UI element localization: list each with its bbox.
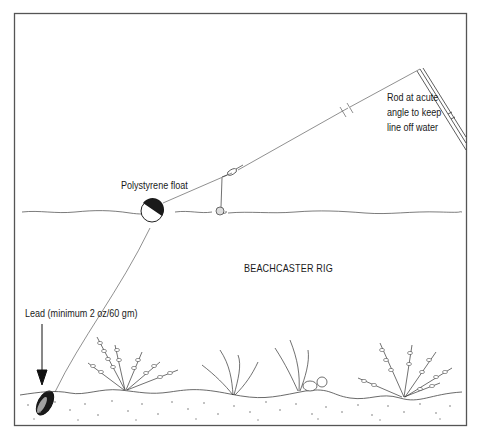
sand-texture — [27, 400, 451, 420]
rod-label-line-3: line off water — [387, 120, 438, 135]
fishing-line — [55, 69, 420, 392]
rod-label-line-1: Rod at acute — [387, 90, 438, 105]
pebbles — [303, 377, 327, 391]
swivel — [221, 165, 243, 207]
polystyrene-float — [141, 198, 164, 222]
float-label: Polystyrene float — [121, 179, 188, 192]
frame-border — [15, 14, 467, 426]
water-surface — [22, 211, 462, 214]
seaweed-branched-right — [358, 343, 452, 397]
lead-label: Lead (minimum 2 oz/60 gm) — [25, 307, 137, 320]
beachcaster-rig-illustration — [0, 0, 483, 440]
lead-arrow-icon — [37, 324, 47, 385]
seaweed-grass-center — [202, 340, 308, 395]
diagram-title: BEACHCASTER RIG — [244, 262, 333, 275]
rod-label-line-2: angle to keep — [387, 105, 441, 120]
baited-hook — [216, 207, 226, 215]
seaweed-branched-left — [88, 337, 178, 390]
sea-bed — [20, 390, 462, 400]
